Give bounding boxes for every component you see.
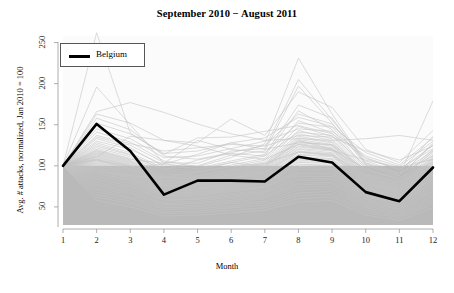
- x-tick-label: 11: [387, 235, 411, 245]
- y-tick-label: 250: [37, 30, 47, 54]
- x-tick-label: 4: [152, 235, 176, 245]
- x-tick-label: 3: [118, 235, 142, 245]
- legend-label-belgium: Belgium: [96, 49, 127, 59]
- x-tick-label: 7: [253, 235, 277, 245]
- x-tick-label: 2: [85, 235, 109, 245]
- x-tick-label: 6: [219, 235, 243, 245]
- y-axis-label: Avg. # attacks, normalized, Jan 2010 = 1…: [15, 50, 25, 230]
- x-tick-label: 9: [320, 235, 344, 245]
- chart-figure: September 2010 − August 2011 Avg. # atta…: [0, 0, 454, 293]
- legend: Belgium: [60, 43, 145, 67]
- y-tick-label: 200: [37, 71, 47, 95]
- x-tick-label: 10: [354, 235, 378, 245]
- y-tick-label: 50: [37, 194, 47, 218]
- x-tick-label: 12: [421, 235, 445, 245]
- x-tick-label: 5: [186, 235, 210, 245]
- x-tick-label: 1: [51, 235, 75, 245]
- y-tick-label: 100: [37, 153, 47, 177]
- x-axis-label: Month: [0, 261, 454, 271]
- y-tick-label: 150: [37, 112, 47, 136]
- legend-line-swatch-belgium: [69, 55, 90, 58]
- x-tick-label: 8: [286, 235, 310, 245]
